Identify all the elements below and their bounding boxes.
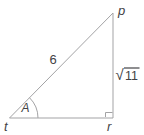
vertex-label-r: r	[107, 119, 112, 134]
hypotenuse-length-label: 6	[50, 52, 57, 67]
right-triangle-figure: p t r A 6 √ 11	[0, 0, 144, 135]
vertex-label-p: p	[117, 3, 125, 18]
radicand-value: 11	[125, 69, 138, 83]
right-angle-marker	[106, 113, 113, 118]
angle-arc	[30, 98, 39, 118]
vertical-side-length-label: √ 11	[116, 66, 140, 83]
vertex-label-t: t	[4, 119, 9, 134]
angle-label-a: A	[21, 101, 30, 115]
radical-sign: √	[116, 66, 125, 83]
triangle-canvas: p t r A 6 √ 11	[0, 0, 144, 135]
